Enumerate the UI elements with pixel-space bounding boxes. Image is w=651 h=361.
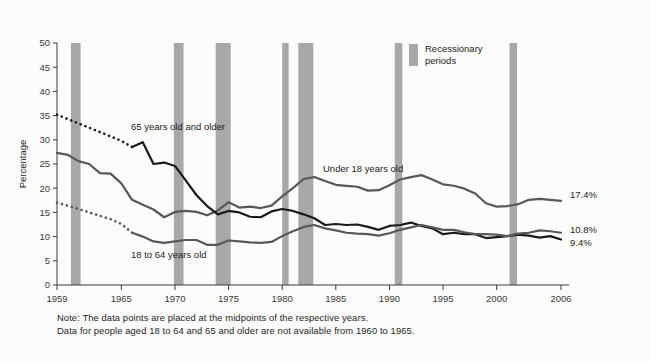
legend-label-line1: Recessionary xyxy=(425,43,483,54)
legend-recession-swatch xyxy=(409,44,418,66)
series-label-65-years-old-and-older: 65 years old and older xyxy=(131,121,225,132)
end-label-65-years-old-and-older: 9.4% xyxy=(570,237,592,248)
y-tick-label-5: 5 xyxy=(45,255,50,266)
y-axis-title: Percentage xyxy=(17,140,28,189)
y-tick-label-45: 45 xyxy=(39,62,50,73)
end-label-18-to-64-years-old: 10.8% xyxy=(570,224,597,235)
legend: Recessionaryperiods xyxy=(409,43,483,66)
recession-band-3 xyxy=(282,43,288,285)
x-tick-label-1995: 1995 xyxy=(432,293,453,304)
legend-label-line2: periods xyxy=(425,55,456,66)
recession-band-4 xyxy=(298,43,313,285)
series-dotted-1 xyxy=(57,115,132,147)
y-tick-label-15: 15 xyxy=(39,207,50,218)
x-tick-label-1959: 1959 xyxy=(46,293,67,304)
recession-band-6 xyxy=(510,43,518,285)
series-line-2 xyxy=(132,225,561,245)
recession-band-2 xyxy=(216,43,231,285)
y-tick-label-35: 35 xyxy=(39,110,50,121)
y-tick-label-50: 50 xyxy=(39,37,50,48)
x-tick-label-1990: 1990 xyxy=(379,293,400,304)
series-label-under-18-years-old: Under 18 years old xyxy=(323,163,403,174)
series-dotted-2 xyxy=(57,203,132,233)
chart-note-line-1: Note: The data points are placed at the … xyxy=(57,312,368,323)
y-tick-label-40: 40 xyxy=(39,86,50,97)
y-tick-label-25: 25 xyxy=(39,158,50,169)
x-tick-label-2000: 2000 xyxy=(486,293,507,304)
series-label-18-to-64-years-old: 18 to 64 years old xyxy=(131,249,207,260)
y-tick-label-0: 0 xyxy=(45,279,50,290)
series-line-1 xyxy=(132,142,561,239)
end-labels-group: 17.4%10.8%9.4% xyxy=(570,189,597,248)
x-tick-label-1980: 1980 xyxy=(272,293,293,304)
end-label-under-18-years-old: 17.4% xyxy=(570,189,597,200)
y-tick-label-10: 10 xyxy=(39,231,50,242)
x-tick-label-2006: 2006 xyxy=(550,293,571,304)
chart-canvas: 0510152025303540455019591965197019751980… xyxy=(0,0,651,361)
y-tick-label-20: 20 xyxy=(39,183,50,194)
y-tick-label-30: 30 xyxy=(39,134,50,145)
x-tick-label-1970: 1970 xyxy=(164,293,185,304)
chart-note-line-2: Data for people aged 18 to 64 and 65 and… xyxy=(57,325,415,336)
x-tick-label-1985: 1985 xyxy=(325,293,346,304)
series-inline-labels-group: 65 years old and olderUnder 18 years old… xyxy=(131,121,403,260)
recession-band-0 xyxy=(71,43,81,285)
x-tick-label-1975: 1975 xyxy=(218,293,239,304)
x-tick-label-1965: 1965 xyxy=(111,293,132,304)
poverty-rate-chart-figure: 0510152025303540455019591965197019751980… xyxy=(0,0,651,361)
